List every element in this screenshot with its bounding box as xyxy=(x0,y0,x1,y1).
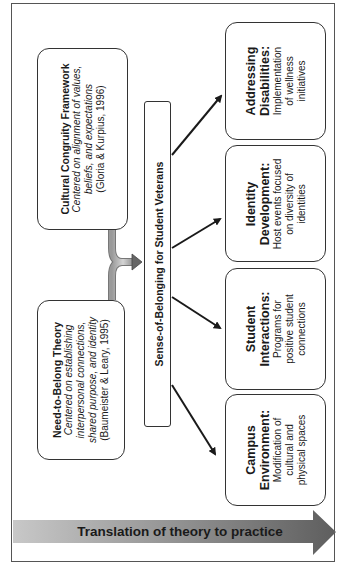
arrow-to-addressing-disabilities xyxy=(172,96,221,155)
sense-of-belonging-label: Sense-of-Belonging for Student Veterans xyxy=(153,162,165,367)
addressing-disabilities-box: Addressing Disabilities: Implementation … xyxy=(225,22,326,140)
theory-citation: (Baumeister & Leary, 1995) xyxy=(99,317,111,443)
practice-title: Disabilities: xyxy=(258,46,272,116)
practice-description: Programs for xyxy=(272,291,284,366)
sense-of-belonging-bar: Sense-of-Belonging for Student Veterans xyxy=(144,101,171,427)
practice-description: Modification of xyxy=(272,410,284,491)
practice-description: Implementation xyxy=(272,46,284,116)
practice-description: physical spaces xyxy=(296,410,308,491)
practice-title: Environment: xyxy=(258,410,272,491)
theory-title: Cultural Congruity Framework xyxy=(59,63,71,214)
arrow-to-campus-environment xyxy=(172,385,215,454)
practice-title: Campus xyxy=(244,410,258,491)
arrow-to-student-interactions xyxy=(172,297,220,328)
theory-description: interpersonal connections, xyxy=(75,317,87,443)
theory-title: Need-to-Belong Theory xyxy=(51,317,63,443)
practice-title: Development: xyxy=(258,158,272,249)
theory-description: shared purpose, and identity xyxy=(87,317,99,443)
translation-arrow-label: Translation of theory to practice xyxy=(70,521,290,543)
theory-citation: (Gloria & Kurpius, 1996) xyxy=(95,63,107,214)
practice-description: connections xyxy=(296,291,308,366)
practice-description: Host events focused xyxy=(272,158,284,249)
theory-description: Centered on establishing xyxy=(63,317,75,443)
identity-development-box: Identity Development: Host events focuse… xyxy=(225,145,326,262)
practice-title: Addressing xyxy=(244,46,258,116)
practice-description: initiatives xyxy=(296,46,308,116)
theory-description: Centered on alignment of values, xyxy=(71,63,83,214)
arrow-to-identity-development xyxy=(172,219,220,248)
practice-description: identities xyxy=(296,158,308,249)
need-to-belong-box: Need-to-Belong Theory Centered on establ… xyxy=(37,300,125,460)
student-interactions-box: Student Interactions: Programs for posit… xyxy=(225,268,326,390)
practice-title: Identity xyxy=(244,158,258,249)
campus-environment-box: Campus Environment: Modification of cult… xyxy=(225,394,326,506)
practice-title: Student xyxy=(244,291,258,366)
practice-description: of wellness xyxy=(284,46,296,116)
practice-title: Interactions: xyxy=(258,291,272,366)
merge-arrow xyxy=(112,230,142,300)
cultural-congruity-box: Cultural Congruity Framework Centered on… xyxy=(37,48,128,230)
practice-description: positive student xyxy=(284,291,296,366)
practice-description: cultural and xyxy=(284,410,296,491)
practice-description: on diversity of xyxy=(284,158,296,249)
theory-description: beliefs, and expectations xyxy=(83,63,95,214)
